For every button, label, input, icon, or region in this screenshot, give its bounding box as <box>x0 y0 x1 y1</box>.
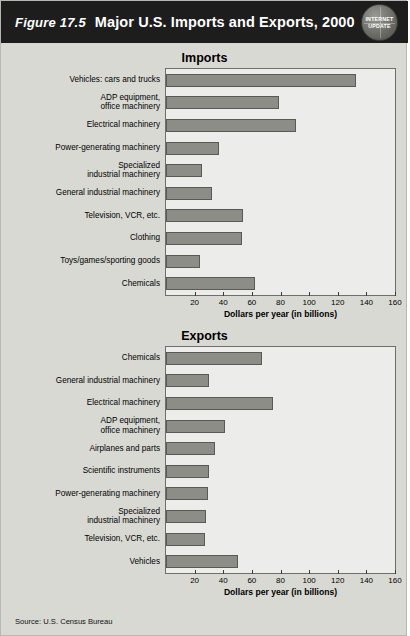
bar <box>166 555 238 568</box>
internet-update-badge[interactable]: INTERNET UPDATE <box>361 4 398 41</box>
imports-chart-title: Imports <box>13 51 396 65</box>
imports-x-axis-title: Dollars per year (in billions) <box>165 309 396 319</box>
category-label: Vehicles: cars and trucks <box>69 75 160 84</box>
x-axis-tick-label: 40 <box>208 576 238 585</box>
bar <box>166 187 212 200</box>
bar <box>166 352 262 365</box>
category-label: ADP equipment, office machinery <box>101 93 160 111</box>
category-label: General industrial machinery <box>56 188 160 197</box>
x-axis-tick-label: 20 <box>180 298 210 307</box>
x-axis-tick <box>195 570 196 574</box>
exports-x-axis-title: Dollars per year (in billions) <box>165 587 396 597</box>
category-label: Vehicles <box>130 557 161 566</box>
x-axis-tick <box>366 570 367 574</box>
exports-category-labels: ChemicalsGeneral industrial machineryEle… <box>13 346 165 574</box>
x-axis-tick <box>281 570 282 574</box>
imports-plot-area: 20406080100120140160 <box>165 68 396 296</box>
category-label: Electrical machinery <box>87 398 160 407</box>
figure-title: Major U.S. Imports and Exports, 2000 <box>95 14 355 30</box>
imports-category-labels: Vehicles: cars and trucksADP equipment, … <box>13 68 165 296</box>
bar <box>166 465 209 478</box>
bar <box>166 164 202 177</box>
category-label: Airplanes and parts <box>89 444 160 453</box>
category-label: Toys/games/sporting goods <box>60 256 160 265</box>
bar <box>166 74 356 87</box>
bar <box>166 255 200 268</box>
exports-plot-wrap: ChemicalsGeneral industrial machineryEle… <box>13 346 396 574</box>
x-axis-tick <box>281 292 282 296</box>
x-axis-tick <box>366 292 367 296</box>
exports-plot-area: 20406080100120140160 <box>165 346 396 574</box>
x-axis-tick <box>252 292 253 296</box>
bar <box>166 374 209 387</box>
bar <box>166 232 242 245</box>
x-axis-tick <box>338 570 339 574</box>
x-axis-tick-label: 40 <box>208 298 238 307</box>
category-label: Electrical machinery <box>87 120 160 129</box>
category-label: Scientific instruments <box>83 466 160 475</box>
x-axis-tick-label: 80 <box>266 298 296 307</box>
category-label: Power-generating machinery <box>55 143 160 152</box>
x-axis-tick <box>252 570 253 574</box>
x-axis-tick <box>338 292 339 296</box>
x-axis-tick-label: 120 <box>323 298 353 307</box>
bar <box>166 487 208 500</box>
x-axis-tick-label: 60 <box>237 576 267 585</box>
bar <box>166 142 219 155</box>
bar <box>166 96 279 109</box>
category-label: Specialized industrial machinery <box>87 161 160 179</box>
x-axis-tick-label: 140 <box>351 298 381 307</box>
x-axis-tick-label: 120 <box>323 576 353 585</box>
x-axis-tick-label: 160 <box>380 576 410 585</box>
x-axis-tick <box>223 570 224 574</box>
x-axis-tick <box>309 570 310 574</box>
bar <box>166 397 273 410</box>
category-label: Television, VCR, etc. <box>84 211 160 220</box>
category-label: ADP equipment, office machinery <box>101 416 160 434</box>
bar <box>166 209 243 222</box>
badge-line-1: INTERNET <box>365 16 393 23</box>
x-axis-tick-label: 80 <box>266 576 296 585</box>
imports-chart-panel: Imports Vehicles: cars and trucksADP equ… <box>13 51 396 319</box>
badge-line-2: UPDATE <box>368 23 391 30</box>
bar <box>166 420 225 433</box>
x-axis-tick-label: 20 <box>180 576 210 585</box>
category-label: Television, VCR, etc. <box>84 534 160 543</box>
exports-chart-title: Exports <box>13 329 396 343</box>
x-axis-tick <box>309 292 310 296</box>
figure-header: Figure 17.5 Major U.S. Imports and Expor… <box>1 1 408 43</box>
bar <box>166 442 215 455</box>
category-label: Chemicals <box>122 353 160 362</box>
exports-chart-panel: Exports ChemicalsGeneral industrial mach… <box>13 329 396 597</box>
category-label: Clothing <box>130 233 160 242</box>
x-axis-tick <box>223 292 224 296</box>
x-axis-tick-label: 140 <box>351 576 381 585</box>
x-axis-tick-label: 160 <box>380 298 410 307</box>
category-label: General industrial machinery <box>56 376 160 385</box>
category-label: Power-generating machinery <box>55 489 160 498</box>
bar <box>166 119 296 132</box>
x-axis-tick-label: 100 <box>294 298 324 307</box>
bar <box>166 510 206 523</box>
category-label: Specialized industrial machinery <box>87 507 160 525</box>
x-axis-tick-label: 100 <box>294 576 324 585</box>
x-axis-tick <box>195 292 196 296</box>
bar <box>166 533 205 546</box>
x-axis-tick-label: 60 <box>237 298 267 307</box>
x-axis-tick <box>395 292 396 296</box>
figure-number: Figure 17.5 <box>15 15 86 30</box>
bar <box>166 277 255 290</box>
x-axis-tick <box>395 570 396 574</box>
source-note: Source: U.S. Census Bureau <box>15 617 113 626</box>
imports-plot-wrap: Vehicles: cars and trucksADP equipment, … <box>13 68 396 296</box>
category-label: Chemicals <box>122 279 160 288</box>
